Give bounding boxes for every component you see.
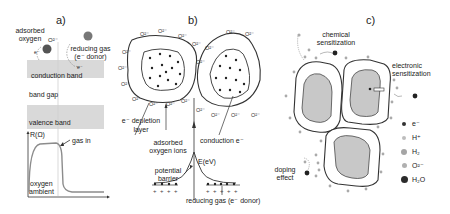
legend-item-water: H₂O — [402, 175, 450, 189]
svg-text:O²⁻: O²⁻ — [251, 112, 260, 118]
legend-item-electron: e⁻ — [402, 119, 450, 133]
svg-text:O²⁻: O²⁻ — [158, 28, 167, 34]
potential-barrier-label-1: potential — [150, 167, 186, 175]
panel-b-label: b) — [188, 14, 198, 26]
doping-effect-label-1: doping — [270, 166, 300, 174]
depletion-layer-label-2: layer — [118, 126, 164, 134]
svg-text:+: + — [160, 188, 164, 194]
oxygen-ambient-label-1: oxygen — [30, 180, 53, 188]
legend-item-hydrogen: H₂ — [402, 147, 450, 161]
svg-text:O²⁻: O²⁻ — [181, 98, 190, 104]
adsorbed-oxygen-label-1: adsorbed — [14, 27, 46, 35]
conduction-electron-label: conduction e⁻ — [200, 137, 244, 145]
svg-text:O²⁻: O²⁻ — [122, 49, 131, 55]
depletion-layer-label-1: e⁻ depletion — [118, 117, 164, 125]
hydrogen-dot-icon — [401, 149, 407, 155]
grain-left-core — [141, 49, 184, 90]
svg-text:+: + — [227, 188, 231, 194]
e-donor-label: (e⁻ donor) — [68, 53, 113, 61]
svg-text:O²⁻: O²⁻ — [231, 112, 240, 118]
svg-text:O²⁻: O²⁻ — [196, 59, 205, 65]
svg-text:O²⁻: O²⁻ — [211, 112, 220, 118]
electron-label-1: e⁻ — [34, 48, 40, 56]
panel-c-graphics — [294, 36, 417, 186]
svg-text:O²⁻: O²⁻ — [196, 107, 205, 113]
oxygen-ion-dot-icon — [402, 163, 407, 168]
electronic-sensitization-label-1: electronic — [392, 62, 422, 70]
proton-dot-icon — [402, 136, 406, 140]
oxygen-molecule-icon — [43, 45, 52, 54]
svg-text:O²⁻: O²⁻ — [132, 96, 141, 102]
chemical-sensitization-label-2: sensitization — [311, 39, 361, 47]
svg-text:+: + — [174, 188, 178, 194]
electronic-sensitization-label-2: sensitization — [392, 70, 431, 78]
svg-text:O²⁻: O²⁻ — [121, 81, 130, 87]
diagram-canvas: ++++ +++++ O²⁻O²⁻O²⁻O²⁻ O²⁻O²⁻O²⁻O²⁻ O²⁻… — [0, 0, 450, 214]
svg-text:O²⁻: O²⁻ — [205, 45, 214, 51]
legend-item-oxygen-ion: O²⁻ — [402, 161, 450, 175]
oxygen-ion-label: O²⁻ — [48, 36, 58, 44]
legend-item-proton: H⁺ — [402, 133, 450, 147]
gas-in-label: gas in — [72, 137, 91, 145]
svg-text:+: + — [220, 188, 224, 194]
electron-dot-icon — [402, 122, 406, 126]
band-gap-label: band gap — [29, 91, 58, 99]
energy-axis-label: E(eV) — [198, 158, 216, 166]
svg-text:O²⁻: O²⁻ — [245, 31, 254, 37]
oxygen-ambient-label-2: ambient — [29, 188, 54, 196]
svg-text:O²⁻: O²⁻ — [178, 33, 187, 39]
reducing-gas-donor-label: reducing gas (e⁻ donor) — [186, 197, 260, 205]
water-dot-icon — [401, 176, 408, 183]
panel-a-label: a) — [56, 14, 66, 26]
svg-text:O²⁻: O²⁻ — [192, 41, 201, 47]
legend: e⁻ H⁺ H₂ O²⁻ H₂O — [402, 119, 450, 189]
reducing-gas-molecule-icon — [84, 32, 93, 41]
doping-effect-label-2: effect — [270, 174, 300, 182]
resistance-axis-label: R(Ω) — [30, 131, 45, 139]
conduction-band-label: conduction band — [31, 72, 82, 80]
panel-c-label: c) — [366, 14, 375, 26]
potential-barrier-label-2: barrier — [150, 175, 186, 183]
adsorbed-ions-label-1: adsorbed — [145, 139, 191, 147]
svg-text:+: + — [213, 188, 217, 194]
svg-text:+: + — [234, 188, 238, 194]
adsorbed-ions-label-2: oxygen ions — [145, 147, 191, 155]
electron-label-2: e⁻ — [77, 63, 83, 71]
svg-text:+: + — [153, 188, 157, 194]
reducing-gas-label: reducing gas — [68, 45, 113, 53]
donor-plus-signs: ++++ +++++ — [153, 188, 238, 194]
svg-text:O²⁻: O²⁻ — [226, 29, 235, 35]
adsorbed-oxygen-label-2: oxygen — [14, 35, 46, 43]
svg-text:O²⁻: O²⁻ — [166, 101, 175, 107]
svg-text:+: + — [206, 188, 210, 194]
svg-text:O²⁻: O²⁻ — [140, 31, 149, 37]
svg-text:+: + — [167, 188, 171, 194]
grain-left-outer — [128, 35, 197, 102]
svg-text:O²⁻: O²⁻ — [118, 65, 127, 71]
svg-text:O²⁻: O²⁻ — [149, 101, 158, 107]
chemical-sensitization-label-1: chemical — [311, 31, 361, 39]
valence-band-label: valence band — [29, 119, 71, 127]
